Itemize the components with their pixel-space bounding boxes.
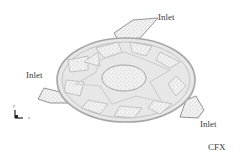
inlet-label-top: Inlet [158, 13, 175, 22]
inlet-label-left: Inlet [26, 71, 43, 80]
axis-x-label: x [28, 116, 30, 120]
software-label: CFX [208, 143, 226, 152]
axis-y-label: y [13, 104, 15, 108]
central-hub [102, 65, 146, 91]
inlet-plate-top [114, 18, 158, 40]
cfd-geometry-figure: Inlet Inlet Inlet CFX y x [0, 0, 241, 158]
inlet-label-right: Inlet [200, 120, 217, 129]
axis-triad [15, 110, 23, 118]
